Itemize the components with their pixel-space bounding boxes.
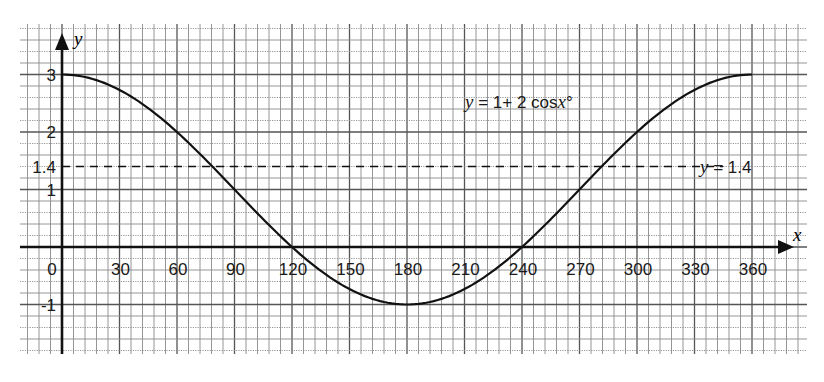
curve-equation-label: y = 1+ 2 cosx° bbox=[463, 91, 573, 112]
line-equation-label: y = 1.4 bbox=[698, 156, 751, 177]
y-tick-label: 1.4 bbox=[32, 158, 56, 177]
x-tick-label: 30 bbox=[111, 260, 130, 279]
y-tick-label: 1 bbox=[47, 181, 56, 200]
x-tick-label: 150 bbox=[336, 260, 364, 279]
x-tick-labels: 0306090120150180210240270300330360 bbox=[47, 260, 767, 279]
x-tick-label: 300 bbox=[624, 260, 652, 279]
x-tick-label: 60 bbox=[169, 260, 188, 279]
y-tick-label: -1 bbox=[41, 296, 56, 315]
y-axis-arrow-icon bbox=[55, 33, 69, 50]
x-axis-arrow-icon bbox=[778, 240, 794, 254]
x-tick-label: 270 bbox=[566, 260, 594, 279]
x-tick-label: 360 bbox=[739, 260, 767, 279]
x-tick-label: 180 bbox=[394, 260, 422, 279]
x-tick-label: 330 bbox=[681, 260, 709, 279]
x-tick-label: 0 bbox=[47, 260, 56, 279]
y-axis-label: y bbox=[72, 28, 83, 49]
x-tick-label: 210 bbox=[451, 260, 479, 279]
cosine-graph: 0306090120150180210240270300330360 -111.… bbox=[0, 0, 824, 382]
x-tick-label: 240 bbox=[509, 260, 537, 279]
x-tick-label: 90 bbox=[226, 260, 245, 279]
y-tick-label: 3 bbox=[47, 66, 56, 85]
y-tick-label: 2 bbox=[47, 123, 56, 142]
x-axis-label: x bbox=[792, 224, 802, 245]
x-tick-label: 120 bbox=[279, 260, 307, 279]
